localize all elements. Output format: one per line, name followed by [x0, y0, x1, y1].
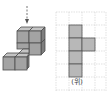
- cell-2-2: [82, 38, 95, 51]
- cell-1-4: [69, 64, 82, 77]
- cell-1-2: [69, 38, 82, 51]
- cell-1-1: [69, 25, 82, 38]
- cell-1-3: [69, 51, 82, 64]
- top-view-label: (위): [66, 78, 88, 87]
- shaded-cells: [69, 25, 95, 77]
- top-view-grid: [0, 0, 107, 100]
